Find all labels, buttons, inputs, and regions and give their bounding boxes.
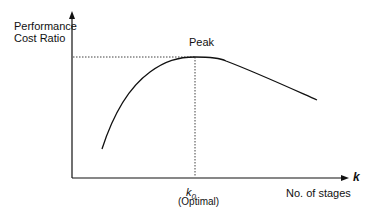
peak-label: Peak: [189, 36, 214, 48]
x-axis-arrow-icon: [341, 175, 349, 181]
x-axis-label: No. of stages: [286, 187, 351, 199]
x-axis-symbol: k: [353, 171, 360, 183]
performance-curve: [102, 57, 317, 149]
y-axis-arrow-icon: [69, 11, 75, 19]
y-axis-label-line1: Performance: [14, 20, 77, 32]
y-axis-label-line2: Cost Ratio: [14, 32, 77, 44]
y-axis-label: Performance Cost Ratio: [14, 20, 77, 44]
optimal-label: (Optimal): [178, 196, 219, 208]
